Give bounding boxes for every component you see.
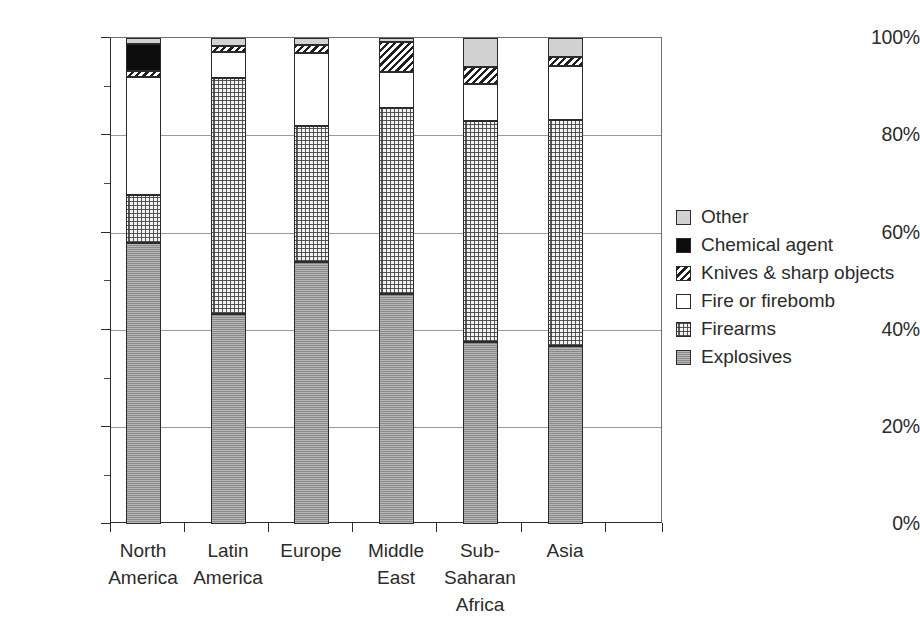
bar-europe[interactable] xyxy=(294,38,329,524)
segment-fire[interactable] xyxy=(294,53,329,126)
segment-other[interactable] xyxy=(463,38,498,67)
plot-area xyxy=(110,37,662,523)
y-tick-label-100: 100% xyxy=(854,26,920,49)
y-tick-mark-20 xyxy=(101,426,110,427)
x-tick-mark-2 xyxy=(268,523,269,532)
y-tick-mark-40 xyxy=(101,329,110,330)
segment-fire[interactable] xyxy=(548,66,583,120)
x-tick-mark-0 xyxy=(110,523,111,532)
legend-label: Explosives xyxy=(701,346,792,368)
bar-sub-saharan-africa[interactable] xyxy=(463,38,498,524)
x-cat-line: Africa xyxy=(420,591,540,618)
x-tick-mark-6 xyxy=(605,523,606,532)
chart-legend: Other Chemical agent Knives & sharp obje… xyxy=(676,203,920,371)
legend-label: Other xyxy=(701,206,749,228)
bar-middle-east[interactable] xyxy=(379,38,414,524)
segment-firearms[interactable] xyxy=(463,121,498,342)
segment-other[interactable] xyxy=(211,38,246,46)
bar-north-america[interactable] xyxy=(126,38,161,524)
segment-knives[interactable] xyxy=(379,42,414,72)
segment-fire[interactable] xyxy=(463,84,498,121)
segment-explosives[interactable] xyxy=(548,346,583,524)
legend-label: Fire or firebomb xyxy=(701,290,835,312)
x-tick-mark-4 xyxy=(436,523,437,532)
segment-knives[interactable] xyxy=(463,67,498,84)
segment-firearms[interactable] xyxy=(211,78,246,314)
y-tick-mark-80 xyxy=(101,134,110,135)
legend-item-other[interactable]: Other xyxy=(676,203,920,231)
bar-asia[interactable] xyxy=(548,38,583,524)
y-tick-mark-0 xyxy=(101,523,110,524)
y-tick-label-80: 80% xyxy=(854,123,920,146)
legend-label: Knives & sharp objects xyxy=(701,262,894,284)
segment-explosives[interactable] xyxy=(126,243,161,524)
x-tick-mark-5 xyxy=(521,523,522,532)
segment-firearms[interactable] xyxy=(294,126,329,262)
legend-label: Chemical agent xyxy=(701,234,833,256)
y-tick-label-20: 20% xyxy=(854,415,920,438)
x-tick-mark-7 xyxy=(662,523,663,532)
segment-other[interactable] xyxy=(548,38,583,57)
segment-knives[interactable] xyxy=(294,45,329,53)
segment-knives[interactable] xyxy=(548,57,583,66)
segment-explosives[interactable] xyxy=(294,262,329,524)
legend-item-explosives[interactable]: Explosives xyxy=(676,343,920,371)
legend-swatch-other-icon xyxy=(676,210,691,225)
segment-fire[interactable] xyxy=(126,77,161,195)
y-tick-label-0: 0% xyxy=(854,512,920,535)
x-tick-mark-1 xyxy=(184,523,185,532)
stacked-bar-chart: 100% 80% 60% 40% 20% 0% xyxy=(0,0,920,623)
segment-explosives[interactable] xyxy=(463,342,498,524)
legend-swatch-chemical-icon xyxy=(676,238,691,253)
x-cat-line: Saharan xyxy=(420,564,540,591)
legend-item-knives-sharp-objects[interactable]: Knives & sharp objects xyxy=(676,259,920,287)
legend-item-chemical-agent[interactable]: Chemical agent xyxy=(676,231,920,259)
segment-fire[interactable] xyxy=(211,52,246,78)
legend-swatch-firearms-icon xyxy=(676,322,691,337)
x-cat-line: America xyxy=(168,564,288,591)
segment-chemical[interactable] xyxy=(126,44,161,71)
legend-item-fire-or-firebomb[interactable]: Fire or firebomb xyxy=(676,287,920,315)
legend-swatch-fire-icon xyxy=(676,294,691,309)
segment-explosives[interactable] xyxy=(211,314,246,524)
legend-item-firearms[interactable]: Firearms xyxy=(676,315,920,343)
segment-firearms[interactable] xyxy=(379,108,414,294)
y-tick-mark-100 xyxy=(101,37,110,38)
legend-swatch-explosives-icon xyxy=(676,350,691,365)
x-tick-mark-3 xyxy=(352,523,353,532)
y-tick-mark-60 xyxy=(101,232,110,233)
legend-label: Firearms xyxy=(701,318,776,340)
x-cat-label-asia: Asia xyxy=(505,537,625,564)
segment-firearms[interactable] xyxy=(548,120,583,346)
bar-latin-america[interactable] xyxy=(211,38,246,524)
legend-swatch-knives-icon xyxy=(676,266,691,281)
segment-firearms[interactable] xyxy=(126,195,161,243)
segment-explosives[interactable] xyxy=(379,294,414,524)
segment-fire[interactable] xyxy=(379,72,414,108)
segment-other[interactable] xyxy=(294,38,329,45)
x-cat-line: Asia xyxy=(505,537,625,564)
